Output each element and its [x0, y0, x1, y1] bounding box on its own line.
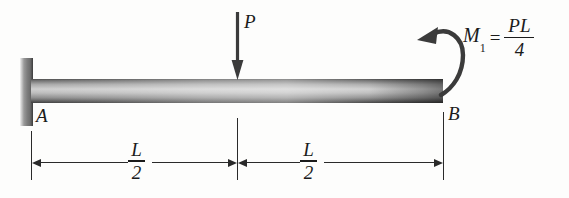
extension-line-right: [443, 112, 444, 180]
moment-numerator: PL: [506, 16, 532, 35]
node-label-b: B: [448, 104, 460, 123]
dimension-right-denominator: 2: [301, 163, 317, 182]
dimension-label-left: L 2: [128, 140, 145, 182]
moment-equation: M1 = PL 4: [463, 16, 534, 59]
moment-denominator: 4: [513, 40, 527, 59]
dimension-label-right: L 2: [300, 140, 317, 182]
extension-line-middle: [237, 118, 238, 180]
moment-fraction: PL 4: [504, 16, 534, 59]
dimension-arrowhead-left-start: [32, 159, 41, 167]
node-label-a: A: [36, 106, 48, 125]
equals-sign: =: [490, 27, 501, 49]
dimension-arrowhead-right-start: [238, 159, 247, 167]
moment-symbol: M1: [463, 24, 486, 51]
dimension-left-denominator: 2: [129, 163, 145, 182]
dimension-arrowhead-left-end: [228, 159, 237, 167]
dimension-line-right-a: [241, 162, 300, 163]
dimension-arrowhead-right-end: [434, 159, 443, 167]
dimension-right-numerator: L: [300, 140, 317, 159]
point-load-label: P: [244, 12, 256, 31]
beam-diagram-figure: A B P M1 = PL 4 L 2: [0, 0, 569, 198]
dimension-line-left-a: [36, 162, 128, 163]
dimension-line-left-b: [152, 162, 234, 163]
moment-subscript: 1: [480, 41, 486, 55]
dimension-left-numerator: L: [128, 140, 145, 159]
dimension-line-right-b: [324, 162, 440, 163]
extension-line-left: [31, 131, 32, 180]
